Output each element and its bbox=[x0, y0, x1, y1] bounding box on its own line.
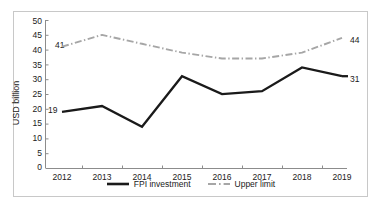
y-tick-label-5: 5 bbox=[26, 149, 42, 158]
data-label-upper-limit-2012: 41 bbox=[55, 41, 64, 50]
y-tick-label-10: 10 bbox=[26, 134, 42, 143]
data-label-upper-limit-2019: 44 bbox=[350, 36, 359, 45]
legend-swatch-dashdot-line-icon bbox=[207, 180, 231, 188]
y-tick-label-45: 45 bbox=[26, 31, 42, 40]
y-tick-label-35: 35 bbox=[26, 61, 42, 70]
data-label-fpi-2019: 31 bbox=[350, 75, 359, 84]
y-tick-label-30: 30 bbox=[26, 75, 42, 84]
y-tick-label-20: 20 bbox=[26, 105, 42, 114]
chart-frame-border bbox=[13, 11, 368, 197]
legend-label-upper-limit: Upper limit bbox=[235, 180, 276, 189]
legend-label-fpi-investment: FPI investment bbox=[134, 180, 191, 189]
y-axis-title: USD billion bbox=[9, 58, 23, 148]
y-tick-label-0: 0 bbox=[26, 163, 42, 172]
y-tick-label-50: 50 bbox=[26, 17, 42, 26]
y-tick-label-25: 25 bbox=[26, 90, 42, 99]
y-axis-title-label: USD billion bbox=[12, 81, 21, 126]
legend-swatch-solid-line-icon bbox=[106, 180, 130, 188]
legend-item-fpi-investment: FPI investment bbox=[106, 180, 191, 189]
y-tick-label-15: 15 bbox=[26, 119, 42, 128]
chart-figure: USD billion 50 45 40 35 30 25 20 15 10 5… bbox=[0, 0, 380, 209]
chart-legend: FPI investment Upper limit bbox=[13, 180, 368, 189]
y-tick-label-40: 40 bbox=[26, 46, 42, 55]
legend-item-upper-limit: Upper limit bbox=[207, 180, 276, 189]
data-label-fpi-2012: 19 bbox=[48, 106, 57, 115]
